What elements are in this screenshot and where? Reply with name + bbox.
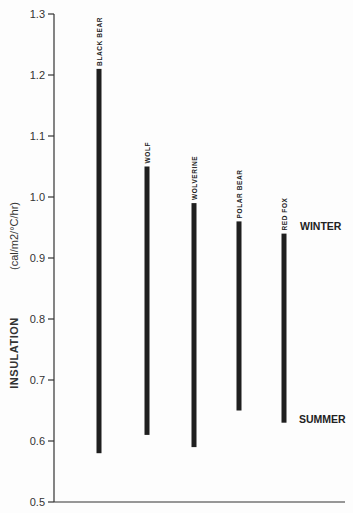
bar-label: WOLF [144, 142, 151, 164]
range-bar [192, 203, 197, 447]
insulation-range-chart: 1.31.21.11.00.90.80.70.60.5 BLACK BEARWO… [0, 0, 353, 513]
summer-label: SUMMER [299, 413, 346, 425]
chart-canvas: 1.31.21.11.00.90.80.70.60.5 BLACK BEARWO… [0, 0, 353, 513]
y-axis-title-main: INSULATION [8, 317, 20, 388]
winter-label: WINTER [300, 220, 342, 232]
range-bar-wolverine: WOLVERINE [191, 156, 198, 447]
y-tick-label: 0.6 [30, 435, 45, 447]
bar-label: WOLVERINE [191, 156, 198, 200]
range-bar [237, 221, 242, 410]
y-axis-title: INSULATION (cal/m2/°C/hr) [8, 202, 20, 389]
range-bar [97, 69, 102, 453]
range-bar [145, 167, 150, 435]
y-tick-label: 0.5 [30, 496, 45, 508]
range-bar-polar-bear: POLAR BEAR [236, 169, 243, 410]
bar-label: RED FOX [281, 197, 288, 230]
y-tick-label: 0.9 [30, 252, 45, 264]
range-bars: BLACK BEARWOLFWOLVERINEPOLAR BEARRED FOX [96, 17, 288, 453]
y-axis-title-units: (cal/m2/°C/hr) [8, 202, 20, 270]
y-tick-label: 1.1 [30, 130, 45, 142]
range-bar-black-bear: BLACK BEAR [96, 17, 103, 453]
range-bar-wolf: WOLF [144, 142, 151, 435]
range-bar [282, 234, 287, 423]
y-tick-label: 1.3 [30, 8, 45, 20]
y-axis: 1.31.21.11.00.90.80.70.60.5 [30, 8, 54, 508]
bar-label: BLACK BEAR [96, 17, 103, 66]
y-tick-label: 1.0 [30, 191, 45, 203]
season-annotations: WINTERSUMMER [299, 220, 346, 425]
y-tick-label: 0.7 [30, 374, 45, 386]
range-bar-red-fox: RED FOX [281, 197, 288, 422]
y-tick-label: 0.8 [30, 313, 45, 325]
y-tick-label: 1.2 [30, 69, 45, 81]
bar-label: POLAR BEAR [236, 169, 243, 218]
